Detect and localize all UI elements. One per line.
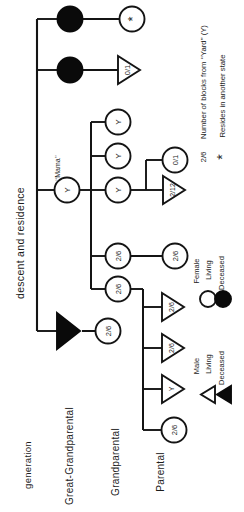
legend-female-group-label: Female (192, 258, 201, 283)
person-gp-f5-label: 2/6 (114, 251, 123, 261)
legend: 2/6 Number of blocks from ‘‘Yard’’ (Y) *… (192, 25, 232, 403)
person-par-m1-label: 2/12 (169, 183, 176, 197)
person-gp-f3-label: Y (114, 153, 123, 159)
legend-male-deceased-symbol (217, 386, 231, 403)
generation-label-parental: Parental (155, 452, 166, 492)
legend-male-deceased-label: Deceased (217, 351, 226, 385)
pedigree-figure: Y ‘‘Mama’’ * 0/1 Y Y Y 2/6 2/6 (0, 0, 244, 512)
legend-female-deceased-label: Deceased (217, 256, 226, 290)
generation-parental-symbols: 0/1 2/12 2/6 2/6 2/6 Y 2/6 (162, 148, 188, 443)
generation-great-grandparental-symbols: Y ‘‘Mama’’ (54, 7, 83, 350)
person-par-m2-label: 2/6 (168, 302, 175, 312)
legend-note-key-asterisk: * (214, 154, 230, 160)
person-gp-f1-label: * (125, 16, 140, 21)
legend-male-living-label: Living (204, 354, 213, 374)
person-ggp-f3-label: Y (63, 187, 72, 193)
generation-label-grandparental: Grandparental (110, 428, 121, 496)
axis-label-descent-and-residence: descent and residence (14, 187, 26, 299)
legend-note-text-blocks: Number of blocks from ‘‘Yard’’ (Y) (199, 25, 208, 139)
generation-grandparental-symbols: * 0/1 Y Y Y 2/6 2/6 2/6 (96, 7, 145, 344)
legend-note-text-asterisk: Resides in another state (218, 55, 227, 138)
person-par-m4-label: Y (168, 386, 175, 391)
person-par-f1-label: 0/1 (171, 155, 180, 165)
legend-female-living-label: Living (204, 260, 213, 280)
legend-female-living-symbol (200, 291, 216, 307)
person-ggp-f1-female-deceased[interactable] (58, 7, 83, 32)
person-gp-f4-label: Y (114, 187, 123, 193)
axis-label-generation: generation (22, 441, 33, 489)
person-ggp-f2-female-deceased[interactable] (58, 58, 83, 83)
person-par-f3-label: 2/6 (170, 425, 179, 435)
person-par-m3-label: 2/6 (168, 343, 175, 353)
person-gp-m1-label: 0/1 (123, 65, 132, 75)
person-gp-f7-label: 2/6 (104, 326, 113, 336)
legend-note-key-blocks: 2/6 (199, 151, 208, 163)
legend-male-living-symbol (201, 386, 215, 403)
generation-label-great-grandparental: Great-Grandparental (64, 407, 75, 505)
legend-male-group-label: Male (192, 358, 201, 374)
person-gp-f6-label: 2/6 (114, 284, 123, 294)
annotation-mama: ‘‘Mama’’ (54, 155, 61, 181)
legend-female-deceased-symbol (215, 291, 231, 307)
person-ggp-m1-male-deceased[interactable] (57, 313, 80, 349)
connector-lines (37, 19, 163, 430)
pedigree-diagram: Y ‘‘Mama’’ * 0/1 Y Y Y 2/6 2/6 (0, 0, 244, 512)
person-gp-f2-label: Y (114, 119, 123, 125)
person-par-f2-label: 2/6 (171, 251, 180, 261)
